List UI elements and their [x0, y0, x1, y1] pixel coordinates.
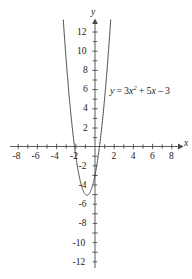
graph-figure: -8 -6 -4 -2 2 4 6 8 12 10 8 6 4 2 -2 -4 … — [0, 0, 192, 279]
x-tick-label--8: -8 — [13, 152, 21, 162]
y-axis — [92, 19, 98, 269]
y-tick-label-4: 4 — [83, 104, 88, 114]
y-tick-label-8: 8 — [83, 66, 88, 76]
x-tick-label--4: -4 — [51, 152, 59, 162]
equation-var-x-linear: x — [151, 85, 155, 96]
equation-annotation: y=3x2+5x–3 — [110, 84, 170, 96]
equation-exponent: 2 — [134, 84, 137, 91]
x-tick-label--2: -2 — [70, 152, 78, 162]
y-tick-label--6: -6 — [79, 200, 87, 210]
equation-minus: – — [158, 85, 163, 96]
equation-equals: = — [116, 85, 122, 96]
y-tick-label--2: -2 — [79, 162, 87, 172]
y-axis-label: y — [91, 8, 95, 18]
x-tick-label-2: 2 — [112, 152, 117, 162]
x-axis-label: x — [184, 139, 188, 149]
y-tick-label-12: 12 — [77, 28, 87, 38]
y-tick-label--12: -12 — [73, 258, 86, 268]
y-tick-label--8: -8 — [79, 219, 87, 229]
x-tick-label-6: 6 — [150, 152, 155, 162]
x-axis — [10, 144, 184, 150]
x-axis-arrow — [178, 144, 184, 150]
y-tick-label-10: 10 — [77, 47, 87, 57]
equation-lhs: y — [110, 85, 114, 96]
y-tick-label-6: 6 — [83, 85, 88, 95]
x-tick-label-8: 8 — [169, 152, 174, 162]
x-tick-label--6: -6 — [32, 152, 40, 162]
coordinate-plane-svg — [0, 0, 192, 279]
y-tick-label--10: -10 — [73, 239, 86, 249]
x-tick-label-4: 4 — [131, 152, 136, 162]
y-tick-label--4: -4 — [79, 181, 87, 191]
equation-plus: + — [139, 85, 145, 96]
y-tick-label-2: 2 — [83, 124, 88, 134]
equation-coef-c: 3 — [165, 85, 170, 96]
y-axis-arrow — [92, 19, 98, 25]
